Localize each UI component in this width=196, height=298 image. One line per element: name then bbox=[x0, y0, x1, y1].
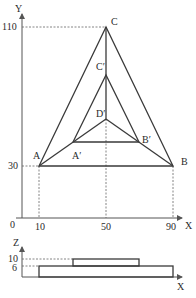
point-c-label: C bbox=[111, 16, 118, 27]
y-tick-30: 30 bbox=[8, 160, 18, 171]
top-view: Y 110 30 0 10 50 90 X C C′ D′ B′ A′ A B bbox=[2, 3, 193, 232]
x-axis-label: X bbox=[185, 220, 193, 231]
top-block bbox=[73, 259, 139, 266]
z-tick-6: 6 bbox=[12, 262, 17, 273]
x-tick-10: 10 bbox=[35, 221, 45, 232]
point-cprime-label: C′ bbox=[96, 61, 105, 72]
x-tick-50: 50 bbox=[101, 221, 111, 232]
point-dprime-label: D′ bbox=[96, 108, 105, 119]
origin-label: 0 bbox=[10, 219, 15, 230]
point-a-label: A bbox=[33, 150, 41, 161]
point-aprime-label: A′ bbox=[72, 150, 81, 161]
z-axis-label: Z bbox=[13, 237, 19, 248]
x-tick-90: 90 bbox=[166, 221, 176, 232]
base-block bbox=[39, 266, 173, 277]
point-bprime-label: B′ bbox=[142, 134, 151, 145]
y-tick-110: 110 bbox=[2, 21, 17, 32]
point-b-label: B bbox=[181, 156, 188, 167]
y-axis-label: Y bbox=[15, 3, 22, 14]
side-view: Z 10 6 X bbox=[8, 237, 185, 292]
diagram-canvas: Y 110 30 0 10 50 90 X C C′ D′ B′ A′ A B … bbox=[0, 0, 196, 298]
side-x-axis-label: X bbox=[177, 281, 185, 292]
